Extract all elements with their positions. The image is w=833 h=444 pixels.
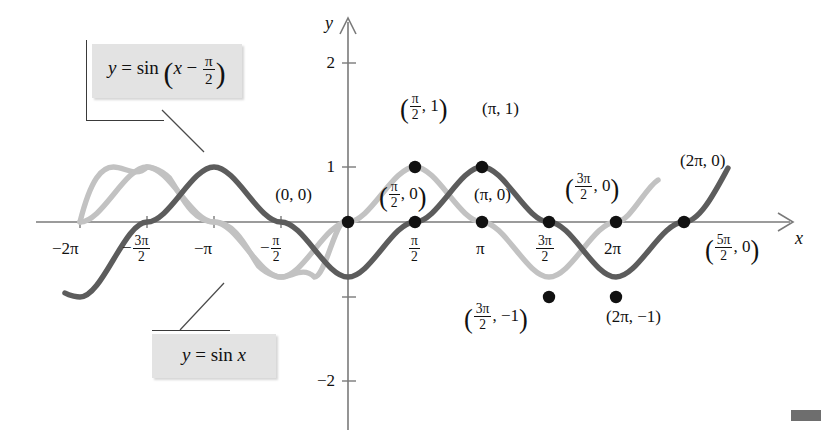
fraction: π2 <box>410 92 421 123</box>
point-pi-1 <box>476 161 488 173</box>
x-tick-label-minus-2pi: −2π <box>52 240 79 257</box>
point-label-pi-1: (π, 1) <box>482 100 519 117</box>
point-0-0 <box>342 216 354 228</box>
paren-open: ( <box>705 242 714 261</box>
callout-bracket-foot-sin-shifted <box>86 120 164 121</box>
point-pi2-0 <box>409 216 421 228</box>
point-3pi2-m1 <box>543 291 555 303</box>
fraction: 5π2 <box>715 233 733 264</box>
point-3pi2-0 <box>543 216 555 228</box>
page-corner-mark <box>789 408 823 423</box>
sine-graph-figure: y x 2 1 −2 −2π −3π2 −π −π2 π2 π 3π2 2π (… <box>0 0 833 444</box>
fraction: 3π2 <box>133 234 151 265</box>
callout-sin: y = sin x <box>152 334 276 378</box>
point-label-pi2-1: (π2, 1) <box>400 92 447 123</box>
callout-bracket-foot-sin <box>152 330 230 331</box>
paren-close: ) <box>439 101 448 120</box>
fraction: 3π2 <box>536 234 554 265</box>
leader-line-sin <box>180 283 224 330</box>
x-tick-label-pi-2: π2 <box>408 234 421 265</box>
paren-close: ) <box>418 189 427 208</box>
point-label-2pi-0: (2π, 0) <box>680 152 725 169</box>
x-axis-label: x <box>795 229 803 247</box>
x-tick-label-minus-3pi-2: −3π2 <box>122 234 151 265</box>
point-label-0-0: (0, 0) <box>275 186 312 203</box>
x-tick-label-minus-pi-2: −π2 <box>260 234 282 265</box>
point-2pi-m1 <box>610 291 622 303</box>
fraction: 3π2 <box>474 302 492 333</box>
x-tick-label-2pi: 2π <box>604 240 621 257</box>
point-pi2-1 <box>409 161 421 173</box>
paren-open: ( <box>565 181 574 200</box>
paren-open: ( <box>379 189 388 208</box>
y-axis-label: y <box>325 14 333 32</box>
point-label-pi2-0: (π2, 0) <box>379 180 426 211</box>
callout-sin-shifted: y = sin (x − π2) <box>92 44 242 98</box>
leader-line-sin-shifted <box>162 110 204 152</box>
y-tick-label-minus2: −2 <box>305 372 335 389</box>
fraction: π2 <box>271 234 282 265</box>
fraction: π2 <box>389 180 400 211</box>
x-tick-label-minus-pi: −π <box>194 240 212 257</box>
paren-open: ( <box>400 101 409 120</box>
fraction: π2 <box>409 234 420 265</box>
x-tick-label-3pi-2: 3π2 <box>535 234 555 265</box>
point-label-pi-0: (π, 0) <box>474 186 511 203</box>
point-2pi-0 <box>610 216 622 228</box>
paren-close: ) <box>216 63 226 84</box>
point-label-2pi-minus1: (2π, −1) <box>606 308 661 325</box>
point-label-3pi2-minus1: (3π2, −1) <box>464 302 528 333</box>
paren-open: ( <box>464 311 473 330</box>
fraction: π2 <box>203 53 215 87</box>
point-label-3pi2-0: (3π2, 0) <box>565 172 619 203</box>
fraction: 3π2 <box>575 172 593 203</box>
y-tick-label-1: 1 <box>315 158 335 175</box>
point-5pi2-0 <box>678 216 690 228</box>
paren-close: ) <box>610 181 619 200</box>
paren-close: ) <box>750 242 759 261</box>
point-pi-0 <box>476 216 488 228</box>
paren-close: ) <box>519 311 528 330</box>
y-tick-label-2: 2 <box>315 54 335 71</box>
paren-open: ( <box>164 63 174 84</box>
point-label-5pi2-0: (5π2, 0) <box>705 233 759 264</box>
x-tick-label-pi: π <box>476 240 485 257</box>
